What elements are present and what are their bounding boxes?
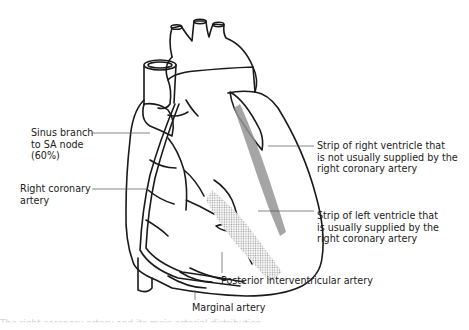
label-sinus-branch: Sinus branch to SA node (60%)	[31, 127, 93, 162]
heart-diagram: Sinus branch to SA node (60%) Right coro…	[0, 0, 469, 330]
label-right-ventricle-strip: Strip of right ventricle that is not usu…	[317, 140, 458, 175]
label-marginal-artery: Marginal artery	[192, 302, 265, 314]
label-right-coronary-artery: Right coronary artery	[20, 183, 91, 206]
aortic-arch	[170, 21, 257, 92]
label-left-ventricle-strip: Strip of left ventricle that is usually …	[317, 210, 439, 245]
right-ventricle-strip-shading	[234, 104, 286, 236]
label-posterior-interventricular-artery: Posterior interventricular artery	[221, 275, 373, 287]
heart-outline	[126, 92, 323, 296]
